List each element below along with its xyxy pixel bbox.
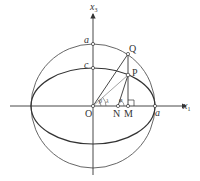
angle-beta-label: β xyxy=(99,98,102,104)
label-a-top: a xyxy=(84,35,89,45)
point-a-top xyxy=(91,42,94,45)
angle-phi-label: φ xyxy=(119,97,122,103)
label-Q: Q xyxy=(129,44,136,54)
label-M: M xyxy=(124,109,133,119)
x1-axis-label: x1 xyxy=(183,101,190,112)
angle-lambda-label: λ xyxy=(106,98,109,104)
label-c-top: c xyxy=(84,60,88,70)
diagram-graphic xyxy=(0,0,200,181)
point-c-top xyxy=(91,66,94,69)
ellipse-latitude-diagram: x3 x1 a c a O N M P Q β λ φ xyxy=(0,0,200,181)
x3-axis-label: x3 xyxy=(90,2,97,13)
point-P xyxy=(126,73,130,77)
label-a-right: a xyxy=(155,108,160,118)
label-O: O xyxy=(85,109,92,119)
label-N: N xyxy=(113,109,120,119)
label-P: P xyxy=(132,68,138,78)
